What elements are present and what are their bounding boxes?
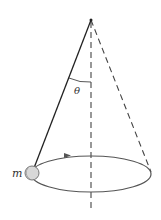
mass-bob xyxy=(25,166,39,180)
angle-arc xyxy=(69,78,91,82)
angle-label: θ xyxy=(74,85,80,96)
mass-label: m xyxy=(12,167,22,180)
pendulum-string xyxy=(34,20,91,168)
cone-edge-dashed xyxy=(91,20,151,172)
pivot-point xyxy=(90,19,93,22)
conical-pendulum-diagram: θ m xyxy=(0,0,161,220)
